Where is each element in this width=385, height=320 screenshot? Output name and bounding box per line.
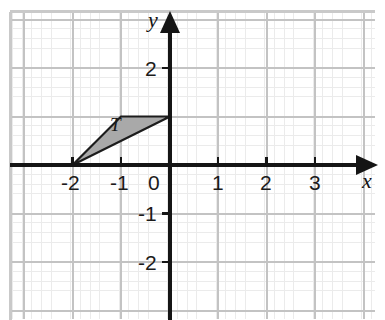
x-tick-label-neg1: -1 — [110, 172, 129, 193]
x-axis-label: x — [362, 170, 372, 192]
y-tick-label-neg1: -1 — [138, 203, 157, 224]
x-tick-label-neg2: -2 — [61, 172, 80, 193]
x-tick-label-1: 1 — [212, 172, 224, 193]
graph-canvas — [0, 0, 385, 320]
triangle-t-label: T — [110, 115, 121, 134]
y-tick-label-2: 2 — [145, 58, 157, 79]
y-axis-label: y — [148, 9, 158, 31]
coordinate-plane-figure: -2 -1 0 1 2 3 2 -1 -2 x y T — [0, 0, 385, 320]
y-tick-label-neg2: -2 — [138, 252, 157, 273]
x-tick-label-3: 3 — [309, 172, 321, 193]
x-tick-label-zero: 0 — [148, 172, 160, 193]
x-tick-label-2: 2 — [260, 172, 272, 193]
